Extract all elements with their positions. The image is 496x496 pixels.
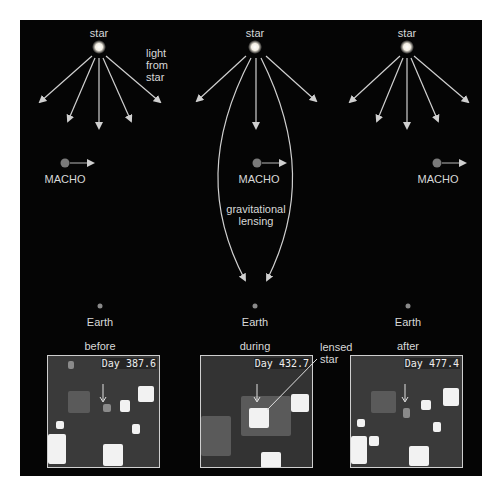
lensed-star-label: lensed star [320, 341, 352, 365]
phase-label-after: after [388, 340, 428, 352]
star-label-before: star [84, 27, 114, 39]
day-label-before: Day 387.6 [101, 358, 157, 369]
star-label-during: star [240, 27, 270, 39]
observation-image-after: Day 477.4 [350, 355, 463, 468]
star-label-after: star [392, 27, 422, 39]
gravitational-lensing-label: gravitational lensing [220, 203, 292, 227]
light-from-star-label: light from star [146, 47, 168, 83]
earth-label-after: Earth [388, 316, 428, 328]
macho-label-during: MACHO [234, 173, 284, 185]
macho-label-before: MACHO [40, 173, 90, 185]
macho-label-after: MACHO [413, 173, 463, 185]
earth-label-during: Earth [235, 316, 275, 328]
day-label-during: Day 432.7 [254, 358, 310, 369]
day-label-after: Day 477.4 [404, 358, 460, 369]
observation-image-before: Day 387.6 [47, 355, 160, 468]
observation-image-during: Day 432.7 [200, 355, 313, 468]
phase-label-before: before [80, 340, 120, 352]
phase-label-during: during [235, 340, 275, 352]
earth-label-before: Earth [80, 316, 120, 328]
